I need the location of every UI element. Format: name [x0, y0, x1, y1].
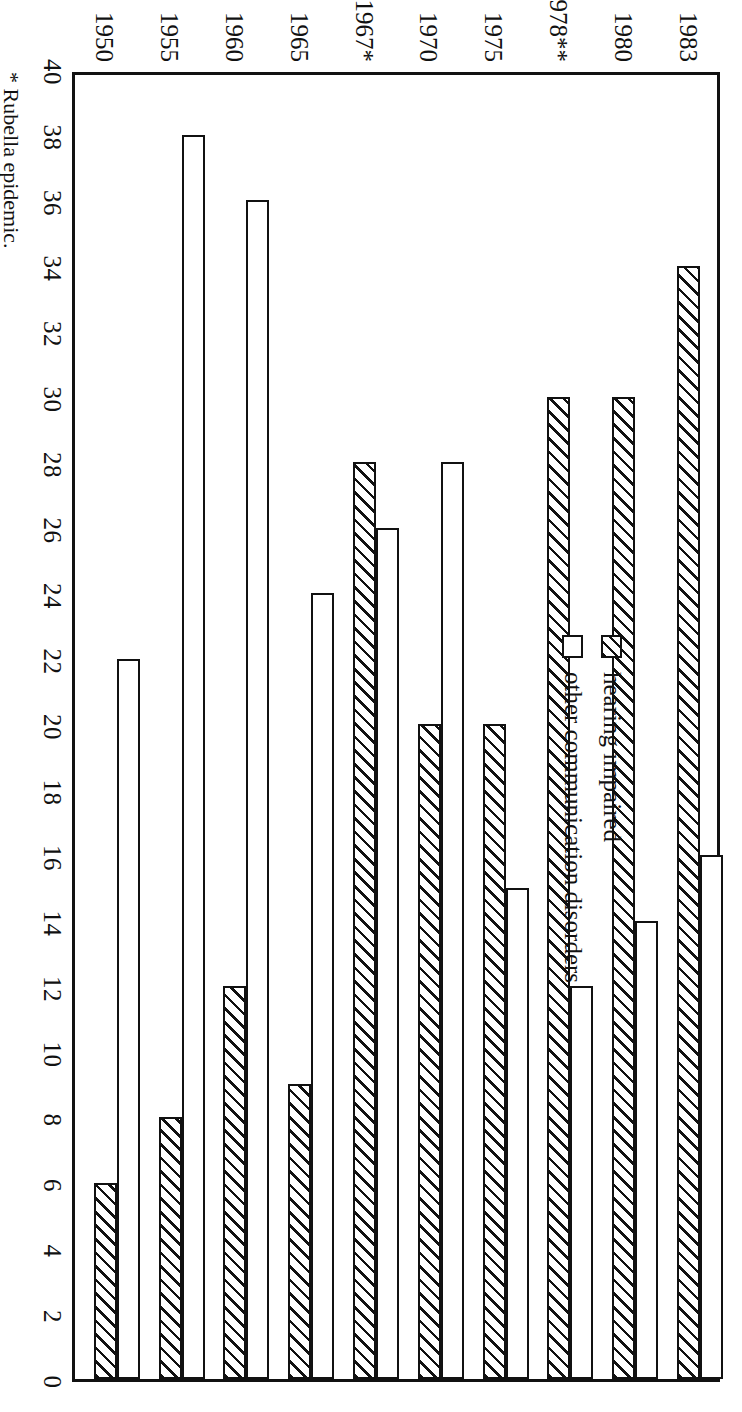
category-axis-tick: 1978** — [543, 0, 573, 62]
bar-group — [328, 75, 393, 1379]
value-axis-tick: 2 — [38, 1297, 66, 1337]
category-axis: 19501955196019651967*197019751978**19801… — [72, 0, 720, 68]
bar-group — [393, 75, 458, 1379]
legend-label: hearing impaired — [598, 672, 626, 842]
bar-hearing-impaired — [353, 462, 376, 1379]
rotated-chart-stage: hearing impairedother communication diso… — [0, 0, 742, 1412]
footnote: * Rubella epidemic. — [0, 72, 26, 249]
value-axis-tick: 6 — [38, 1166, 66, 1206]
category-axis-tick: 1980 — [608, 12, 638, 62]
bar-group — [134, 75, 199, 1379]
bar-hearing-impaired — [223, 986, 246, 1379]
value-axis-tick: 16 — [38, 838, 66, 878]
bar-hearing-impaired — [159, 1117, 182, 1379]
category-axis-tick: 1983 — [673, 12, 703, 62]
legend-item: other communication disorders — [560, 635, 586, 1065]
value-axis-tick: 0 — [38, 1362, 66, 1402]
value-axis-tick: 38 — [38, 118, 66, 158]
value-axis-tick: 20 — [38, 707, 66, 747]
bar-hearing-impaired — [418, 724, 441, 1379]
bar-hearing-impaired — [483, 724, 506, 1379]
value-axis-tick: 18 — [38, 773, 66, 813]
value-axis-tick: 8 — [38, 1100, 66, 1140]
value-axis-tick: 36 — [38, 183, 66, 223]
category-axis-tick: 1965 — [284, 12, 314, 62]
category-axis-tick: 1955 — [154, 12, 184, 62]
category-axis-tick: 1975 — [478, 12, 508, 62]
value-axis-tick: 22 — [38, 642, 66, 682]
value-axis: 4038363432302826242220181614121086420 — [26, 72, 66, 1382]
chart-legend: hearing impairedother communication diso… — [547, 635, 625, 1065]
bar-hearing-impaired — [677, 266, 700, 1380]
bar-group — [69, 75, 134, 1379]
value-axis-tick: 40 — [38, 52, 66, 92]
value-axis-tick: 32 — [38, 314, 66, 354]
bar-group — [263, 75, 328, 1379]
bar-group — [652, 75, 717, 1379]
value-axis-tick: 10 — [38, 1035, 66, 1075]
bar-other-communication-disorders — [700, 855, 723, 1379]
value-axis-tick: 28 — [38, 445, 66, 485]
bar-hearing-impaired — [94, 1183, 117, 1380]
value-axis-tick: 26 — [38, 511, 66, 551]
value-axis-tick: 14 — [38, 904, 66, 944]
legend-label: other communication disorders — [559, 672, 587, 983]
category-axis-tick: 1950 — [89, 12, 119, 62]
bar-group — [458, 75, 523, 1379]
category-axis-tick: 1960 — [219, 12, 249, 62]
bar-group — [199, 75, 264, 1379]
value-axis-tick: 12 — [38, 969, 66, 1009]
value-axis-tick: 24 — [38, 576, 66, 616]
white-swatch — [563, 635, 584, 658]
category-axis-tick: 1970 — [413, 12, 443, 62]
plot-area: hearing impairedother communication diso… — [72, 72, 720, 1382]
legend-item: hearing impaired — [599, 635, 625, 1065]
value-axis-tick: 4 — [38, 1231, 66, 1271]
value-axis-tick: 30 — [38, 380, 66, 420]
footnotes: * Rubella epidemic. — [0, 72, 26, 249]
bar-hearing-impaired — [288, 1084, 311, 1379]
category-axis-tick: 1967* — [349, 0, 379, 62]
chart-canvas: hearing impairedother communication diso… — [0, 0, 742, 1412]
value-axis-tick: 34 — [38, 249, 66, 289]
hatched-swatch — [602, 635, 623, 658]
